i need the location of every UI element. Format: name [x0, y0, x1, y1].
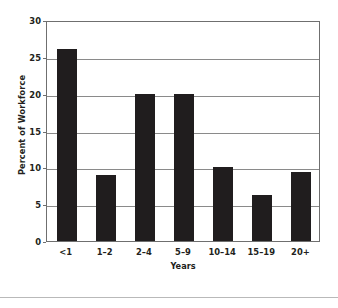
- bar-slot: [282, 22, 321, 241]
- x-axis-tick-labels: <11–22–45–910–1415–1920+: [46, 244, 320, 260]
- y-tick-label: 10: [6, 163, 46, 173]
- bar-series: [47, 22, 319, 241]
- bar-slot: [125, 22, 164, 241]
- bar-slot: [47, 22, 86, 241]
- bar: [96, 175, 116, 241]
- bar-chart-figure: Percent of Workforce 051015202530 <11–22…: [0, 0, 338, 308]
- bar: [57, 49, 77, 241]
- x-tick-label: <1: [59, 247, 72, 257]
- bar-slot: [204, 22, 243, 241]
- x-tick-label: 1–2: [97, 247, 113, 257]
- y-tick-label: 20: [6, 90, 46, 100]
- y-tick-mark: [43, 242, 46, 243]
- y-tick-label: 15: [6, 127, 46, 137]
- x-tick-label: 5–9: [175, 247, 191, 257]
- bar-slot: [164, 22, 203, 241]
- x-tick-label: 20+: [291, 247, 310, 257]
- x-tick-label: 15–19: [248, 247, 276, 257]
- bar: [213, 167, 233, 241]
- bar: [252, 195, 272, 241]
- x-axis-title: Years: [46, 261, 320, 271]
- y-tick-label: 0: [6, 237, 46, 247]
- bar: [135, 94, 155, 241]
- x-tick-label: 10–14: [208, 247, 236, 257]
- bar: [291, 172, 311, 241]
- bar-slot: [86, 22, 125, 241]
- bar-slot: [243, 22, 282, 241]
- bar: [174, 94, 194, 241]
- x-tick-label: 2–4: [136, 247, 152, 257]
- y-tick-label: 5: [6, 200, 46, 210]
- y-axis-tick-labels: 051015202530: [0, 21, 46, 242]
- plot-area: [46, 21, 320, 242]
- y-tick-label: 25: [6, 53, 46, 63]
- y-tick-label: 30: [6, 16, 46, 26]
- footer-divider: [0, 297, 338, 298]
